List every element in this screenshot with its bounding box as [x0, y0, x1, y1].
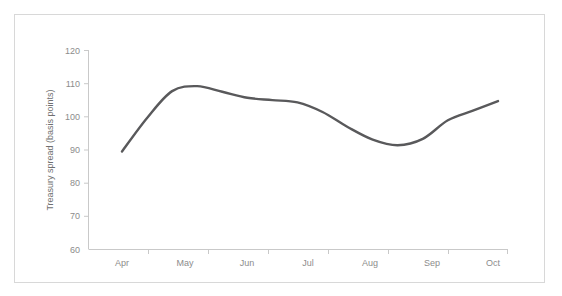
- y-tick-label-4: 80: [70, 178, 80, 188]
- series-line-treasury-spread: [122, 86, 498, 151]
- y-tick-label-0: 120: [65, 46, 80, 56]
- x-tick-label-aug: Aug: [362, 258, 378, 268]
- x-tick-label-jun: Jun: [240, 258, 255, 268]
- y-tick-label-1: 110: [66, 79, 80, 89]
- y-axis-title: Treasury spread (basis points): [45, 89, 55, 210]
- x-axis-ticks: [149, 250, 508, 255]
- y-axis-tick-labels: 120 110 100 90 80 70 60: [65, 46, 80, 255]
- line-chart: Treasury spread (basis points) 120 110 1…: [0, 0, 562, 296]
- x-axis-tick-labels: Apr May Jun Jul Aug Sep Oct: [115, 258, 501, 268]
- y-axis-ticks: [84, 51, 89, 217]
- x-tick-label-may: May: [176, 258, 194, 268]
- x-tick-label-apr: Apr: [115, 258, 129, 268]
- y-tick-label-5: 70: [70, 211, 80, 221]
- y-tick-label-2: 100: [65, 112, 80, 122]
- x-tick-label-sep: Sep: [424, 258, 440, 268]
- x-tick-label-jul: Jul: [302, 258, 314, 268]
- y-tick-label-6: 60: [70, 245, 80, 255]
- figure-canvas: Treasury spread (basis points) 120 110 1…: [0, 0, 562, 296]
- x-tick-label-oct: Oct: [486, 258, 501, 268]
- y-tick-label-3: 90: [70, 145, 80, 155]
